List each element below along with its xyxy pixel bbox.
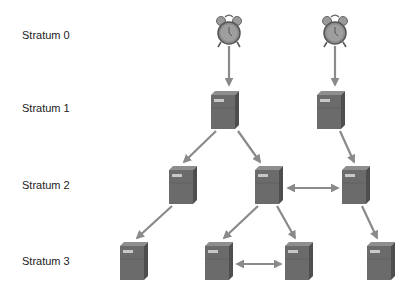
clock-icon bbox=[323, 15, 348, 47]
server-icon-s2-a bbox=[169, 166, 197, 204]
server-icon-s3-b bbox=[205, 242, 233, 280]
edge-s1-a-s2-b bbox=[238, 131, 260, 162]
server-icon-s3-c bbox=[285, 242, 313, 280]
edge-s1-a-s2-a bbox=[184, 131, 216, 162]
server-icon-s3-d bbox=[367, 242, 395, 280]
edge-s2-b-s3-c bbox=[277, 206, 295, 238]
edge-s2-c-s3-d bbox=[362, 206, 377, 238]
edges bbox=[137, 46, 377, 264]
edge-s1-b-s2-c bbox=[340, 131, 354, 162]
server-icon-s1-a bbox=[211, 91, 239, 129]
edge-s2-a-s3-a bbox=[137, 206, 172, 238]
server-icon-s3-a bbox=[120, 242, 148, 280]
edge-s2-b-s3-b bbox=[224, 206, 258, 238]
server-icon-s2-c bbox=[342, 166, 370, 204]
ntp-hierarchy-diagram bbox=[0, 0, 413, 299]
server-icon-s1-b bbox=[317, 91, 345, 129]
server-icon-s2-b bbox=[255, 166, 283, 204]
clock-icon bbox=[217, 15, 242, 47]
